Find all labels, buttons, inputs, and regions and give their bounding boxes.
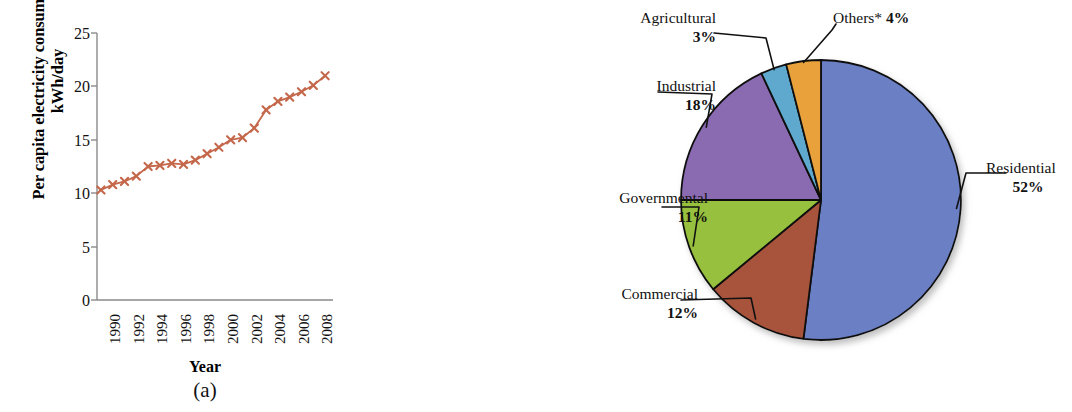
data-point-marker	[133, 173, 140, 180]
pie-label-commercial-name: Commercial	[621, 285, 698, 302]
x-tick-label-1994: 1994	[154, 314, 171, 344]
pie-slice-residential	[803, 60, 961, 340]
data-point-marker	[298, 88, 305, 95]
pie-label-agricultural: Agricultural 3%	[576, 8, 716, 46]
pie-label-others-value: 4%	[886, 9, 909, 26]
panel-a-caption: (a)	[145, 378, 265, 403]
leader-line-others	[804, 24, 836, 63]
data-point-marker	[97, 186, 104, 193]
x-tick-label-1996: 1996	[178, 314, 195, 344]
x-tick-label-1990: 1990	[107, 314, 124, 344]
pie-label-others-name: Others*	[833, 9, 882, 26]
x-tick-label-1992: 1992	[131, 314, 148, 344]
x-axis-title: Year	[60, 358, 350, 376]
pie-label-others: Others* 4%	[833, 8, 1013, 27]
pie-label-industrial-value: 18%	[556, 95, 716, 114]
pie-label-residential: Residential 52%	[986, 158, 1072, 196]
panel-a-line-chart: Per capita electricity consumptionkWh/da…	[0, 0, 536, 412]
data-point-marker	[322, 72, 329, 79]
x-tick-label-2002: 2002	[249, 314, 266, 344]
data-point-marker	[263, 106, 270, 113]
pie-label-industrial-name: Industrial	[657, 77, 716, 94]
data-point-marker	[215, 144, 222, 151]
data-point-marker	[251, 124, 258, 131]
pie-label-agricultural-value: 3%	[576, 27, 716, 46]
data-series-layer	[97, 72, 328, 193]
pie-label-governmental-name: Governmental	[619, 189, 708, 206]
x-tick-label-2004: 2004	[272, 314, 289, 344]
pie-label-residential-value: 52%	[986, 177, 1070, 196]
x-tick-label-2006: 2006	[296, 314, 313, 344]
figure-container: Per capita electricity consumptionkWh/da…	[0, 0, 1072, 412]
pie-label-commercial: Commercial 12%	[526, 284, 698, 322]
pie-label-agricultural-name: Agricultural	[640, 9, 716, 26]
pie-label-governmental-value: 11%	[526, 207, 708, 226]
data-point-marker	[310, 82, 317, 89]
x-tick-label-1998: 1998	[201, 314, 218, 344]
pie-label-industrial: Industrial 18%	[556, 76, 716, 114]
x-tick-label-2000: 2000	[225, 314, 242, 344]
pie-label-commercial-value: 12%	[526, 303, 698, 322]
y-axis-ticks	[91, 33, 97, 300]
data-point-marker	[204, 150, 211, 157]
leader-line-agricultural	[714, 33, 774, 70]
x-tick-label-2008: 2008	[319, 314, 336, 344]
panel-b-pie-chart: Agricultural 3% Industrial 18% Governmen…	[536, 0, 1072, 412]
line-chart-plot	[0, 0, 536, 412]
pie-label-governmental: Governmental 11%	[526, 188, 708, 226]
pie-label-residential-name: Residential	[986, 159, 1056, 176]
